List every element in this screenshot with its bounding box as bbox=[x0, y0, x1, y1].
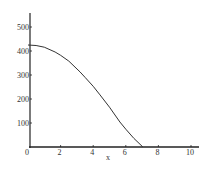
axes bbox=[29, 13, 199, 148]
chart: 0246810100200300400500 x bbox=[0, 0, 201, 169]
x-tick-label: 4 bbox=[90, 148, 94, 157]
y-tick-label: 300 bbox=[17, 71, 29, 80]
y-tick-label: 100 bbox=[17, 119, 29, 128]
x-tick-label: 2 bbox=[58, 148, 62, 157]
x-tick-label: 10 bbox=[186, 148, 194, 157]
y-tick-label: 500 bbox=[17, 23, 29, 32]
x-tick-label: 0 bbox=[25, 148, 29, 157]
data-line bbox=[28, 45, 143, 147]
x-tick-label: 6 bbox=[123, 148, 127, 157]
y-tick-label: 200 bbox=[17, 95, 29, 104]
y-tick-label: 400 bbox=[17, 47, 29, 56]
ticks: 0246810100200300400500 bbox=[17, 23, 194, 157]
x-axis-label: x bbox=[106, 153, 110, 162]
x-tick-label: 8 bbox=[155, 148, 159, 157]
